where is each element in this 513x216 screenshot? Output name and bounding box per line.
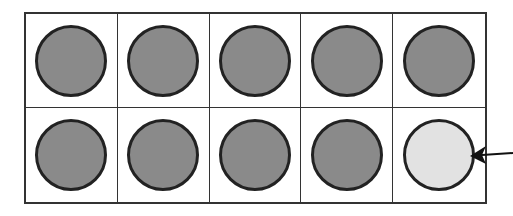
frame-cell <box>26 108 118 202</box>
filled-counter <box>35 119 107 191</box>
frame-cell <box>301 14 393 108</box>
light-counter <box>403 119 475 191</box>
filled-counter <box>311 119 383 191</box>
frame-cell <box>393 14 485 108</box>
frame-cell <box>118 14 210 108</box>
arrow-left-icon <box>470 140 513 170</box>
frame-cell <box>118 108 210 202</box>
filled-counter <box>127 25 199 97</box>
filled-counter <box>403 25 475 97</box>
frame-cell <box>210 108 302 202</box>
ten-frame <box>24 12 487 204</box>
filled-counter <box>219 25 291 97</box>
filled-counter <box>311 25 383 97</box>
filled-counter <box>219 119 291 191</box>
filled-counter <box>35 25 107 97</box>
frame-cell <box>301 108 393 202</box>
frame-cell <box>26 14 118 108</box>
filled-counter <box>127 119 199 191</box>
frame-cell <box>210 14 302 108</box>
